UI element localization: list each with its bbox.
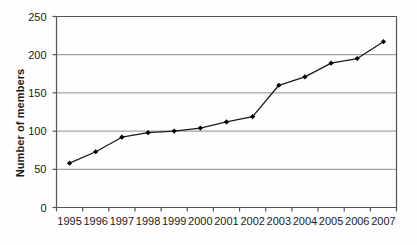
- data-point-marker: [119, 135, 124, 140]
- data-point-marker: [302, 74, 307, 79]
- x-tick-label: 2007: [366, 215, 400, 227]
- data-point-markers: [67, 39, 386, 166]
- data-point-marker: [172, 129, 177, 134]
- y-tick-label: 250: [17, 11, 47, 23]
- data-series-line: [70, 42, 384, 163]
- data-point-marker: [93, 149, 98, 154]
- y-tick-label: 200: [17, 49, 47, 61]
- data-point-marker: [224, 119, 229, 124]
- x-axis-ticks: [57, 208, 397, 212]
- y-tick-label: 150: [17, 87, 47, 99]
- gridlines: [57, 17, 397, 170]
- plot-frame: [57, 17, 397, 208]
- y-tick-label: 100: [17, 125, 47, 137]
- data-point-marker: [198, 125, 203, 130]
- line-chart: Number of members 050100150200250 199519…: [0, 0, 417, 245]
- plot-area: [0, 0, 417, 245]
- y-tick-label: 50: [17, 163, 47, 175]
- data-point-marker: [67, 161, 72, 166]
- data-point-marker: [329, 61, 334, 66]
- y-tick-label: 0: [17, 202, 47, 214]
